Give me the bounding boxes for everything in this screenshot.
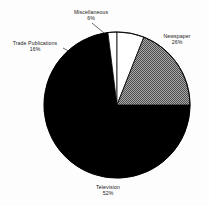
pie-label-miscellaneous-value: 6% [64,15,118,21]
pie-label-trade-publications: Trade Publications 16% [2,40,68,53]
pie-label-trade-publications-value: 16% [2,46,68,52]
pie-chart-figure: Newspaper 26% Television 52% Trade Publi… [0,0,209,206]
pie-label-newspaper: Newspaper 26% [148,33,206,46]
pie-chart-canvas [0,0,209,206]
pie-label-miscellaneous: Miscellaneous 6% [64,9,118,22]
pie-label-television: Television 52% [78,184,138,197]
leader-line-miscellaneous [92,23,104,33]
pie-label-newspaper-value: 26% [148,39,206,45]
pie-label-television-value: 52% [78,190,138,196]
